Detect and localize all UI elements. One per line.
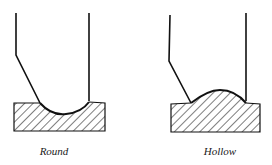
hollow-tool xyxy=(169,13,246,103)
round-tool xyxy=(16,13,89,114)
round-workpiece xyxy=(14,102,105,131)
hollow-figure xyxy=(169,13,260,132)
round-label: Round xyxy=(40,145,69,157)
hollow-label: Hollow xyxy=(204,145,236,157)
diagram-canvas xyxy=(0,0,272,165)
round-figure xyxy=(14,13,105,131)
